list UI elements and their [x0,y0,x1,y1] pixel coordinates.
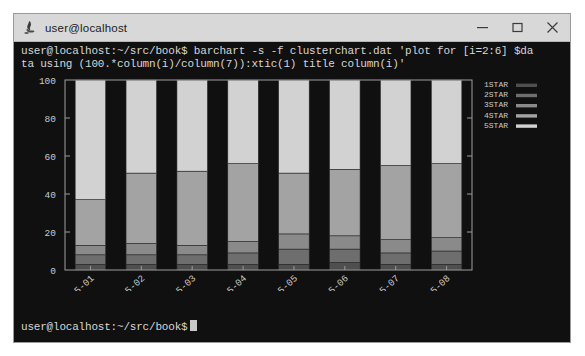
terminal-window: user@localhost [13,13,571,343]
command-line-2: ta using (100.*column(i)/column(7)):xtic… [21,58,405,71]
x-axis-tick-label: 2015-05 [263,273,300,291]
x-axis-tick-label: 2015-03 [161,273,198,291]
window-titlebar[interactable]: user@localhost [14,14,570,42]
x-axis-tick-label: 2015-01 [59,273,96,291]
bar-segment [431,80,462,164]
bar-segment [75,80,106,200]
bar-segment [228,164,259,242]
window-title: user@localhost [45,22,127,34]
bar-segment [126,255,157,264]
bar-group [177,80,208,270]
y-axis-tick-label: 80 [45,114,57,125]
y-axis-tick-label: 0 [50,266,56,277]
bar-segment [177,245,208,255]
window-controls [465,14,570,41]
bar-segment [75,200,106,246]
bar-group [431,80,462,270]
maximize-button[interactable] [500,14,535,41]
terminal-body[interactable]: user@localhost:~/src/book$ barchart -s -… [14,42,570,343]
bar-segment [228,242,259,253]
bar-segment [126,80,157,173]
bar-segment [228,80,259,164]
maximize-icon [511,21,524,34]
bar-segment [75,245,106,255]
close-button[interactable] [535,14,570,41]
bar-group [330,80,361,270]
legend-swatch [516,84,537,87]
x-axis-tick-label: 2015-02 [110,273,147,291]
legend-label: 4STAR [484,111,508,120]
legend-label: 3STAR [484,100,508,109]
bar-segment [330,80,361,169]
y-axis-tick-label: 100 [39,76,56,87]
bar-segment [177,80,208,171]
bar-segment [177,171,208,245]
y-axis-tick-label: 20 [45,228,57,239]
bar-group [380,80,411,270]
legend-label: 1STAR [484,80,508,89]
legend-swatch [516,114,537,117]
legend-swatch [516,94,537,97]
x-axis-tick-label: 2015-06 [314,273,351,291]
bar-segment [279,173,310,234]
bar-segment [330,236,361,249]
bar-segment [330,169,361,236]
bar-segment [126,243,157,254]
x-axis-tick-label: 2015-04 [212,273,249,291]
prompt-text: user@localhost:~/src/book$ [21,321,187,333]
bar-group [279,80,310,270]
bar-segment [126,173,157,243]
legend-swatch [516,124,537,127]
bar-segment [431,164,462,238]
bar-segment [380,253,411,264]
bar-segment [75,255,106,264]
y-axis-tick-label: 60 [45,152,57,163]
legend-label: 5STAR [484,121,508,130]
legend-swatch [516,104,537,107]
bar-segment [330,249,361,262]
stacked-bar-chart: 0204060801002015-012015-022015-032015-04… [21,75,561,291]
minimize-button[interactable] [465,14,500,41]
bar-segment [380,240,411,253]
bar-segment [431,238,462,251]
shell-prompt: user@localhost:~/src/book$ [21,320,197,334]
x-axis-tick-label: 2015-08 [416,273,453,291]
close-icon [545,20,560,35]
bar-segment [228,253,259,264]
bar-segment [431,251,462,264]
bar-segment [380,80,411,166]
command-line-1: user@localhost:~/src/book$ barchart -s -… [21,45,533,58]
block-cursor-icon [190,320,197,331]
bar-group [75,80,106,270]
x-axis-tick-label: 2015-07 [365,273,402,291]
gnome-terminal-icon [22,20,38,36]
minimize-icon [476,21,489,34]
bar-segment [279,80,310,173]
bar-group [126,80,157,270]
bar-group [228,80,259,270]
legend-label: 2STAR [484,90,508,99]
screenshot-root: user@localhost [0,0,585,356]
bar-segment [279,249,310,264]
bar-segment [380,166,411,240]
bar-segment [177,255,208,264]
bar-segment [279,234,310,249]
gnuplot-chart: 0204060801002015-012015-022015-032015-04… [21,75,561,291]
y-axis-tick-label: 40 [45,190,57,201]
